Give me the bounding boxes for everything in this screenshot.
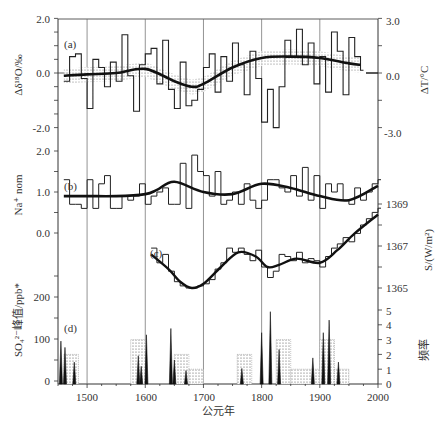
x-tick-1500: 1500	[76, 391, 99, 403]
b-left-tick-2: 2.0	[36, 145, 50, 157]
d-right-tick-1: 1	[386, 364, 392, 376]
d-left-tick-100: 100	[34, 333, 51, 345]
panel-label-a: (a)	[64, 38, 77, 51]
a-right-tick-m3: -3.0	[384, 127, 402, 139]
d-right-tick-4: 4	[386, 319, 392, 331]
c-right-axis-title: S/(W/m²)	[422, 229, 435, 271]
x-tick-2000: 2000	[367, 391, 390, 403]
a-left-axis-title: Δδ¹⁸O/‰	[12, 54, 24, 95]
b-left-tick-0: 0.0	[36, 227, 50, 239]
a-left-tick-m2: -2.0	[33, 122, 51, 134]
panel-a-oxygen-isotope	[58, 29, 378, 127]
x-tick-1800: 1800	[251, 391, 274, 403]
panel-c-solar-irradiance	[151, 208, 381, 288]
a-left-tick-2: 2.0	[36, 13, 50, 25]
c-right-tick-1369: 1369	[386, 198, 409, 210]
frequency-blocks	[64, 340, 349, 384]
panel-label-d: (d)	[64, 322, 77, 335]
climate-proxy-chart: (a) (b) (c) (d) 2.0 0.0 -2.0 2.0 1.0 0.0…	[0, 0, 444, 422]
panel-label-b: (b)	[64, 180, 77, 193]
x-tick-1600: 1600	[135, 391, 158, 403]
panel-b-sodium	[64, 155, 381, 208]
a-right-axis-title: ΔT/°C	[418, 66, 430, 95]
d-right-axis-title: 频率	[417, 339, 430, 361]
d-left-axis-title: SO₄²⁻峰值/ppb*	[12, 283, 24, 357]
b-left-axis-title: Na⁺ nom	[12, 174, 24, 215]
d-right-tick-2: 2	[386, 349, 392, 361]
b-left-tick-1: 1.0	[36, 186, 50, 198]
d-right-tick-5: 5	[386, 305, 392, 317]
panel-label-c: (c)	[150, 247, 163, 260]
d-right-tick-0: 0	[386, 378, 392, 390]
a-right-tick-0: 0.0	[386, 70, 400, 82]
a-right-tick-3: 3.0	[386, 15, 400, 27]
x-tick-1700: 1700	[193, 391, 216, 403]
c-right-tick-1367: 1367	[386, 240, 409, 252]
a-left-tick-0: 0.0	[36, 67, 50, 79]
d-left-tick-200: 200	[34, 291, 51, 303]
x-tick-1900: 1900	[309, 391, 332, 403]
d-left-tick-0: 0	[45, 375, 51, 387]
x-axis-title: 公元年	[202, 404, 235, 417]
c-right-tick-1365: 1365	[386, 282, 409, 294]
d-right-tick-3: 3	[386, 334, 392, 346]
